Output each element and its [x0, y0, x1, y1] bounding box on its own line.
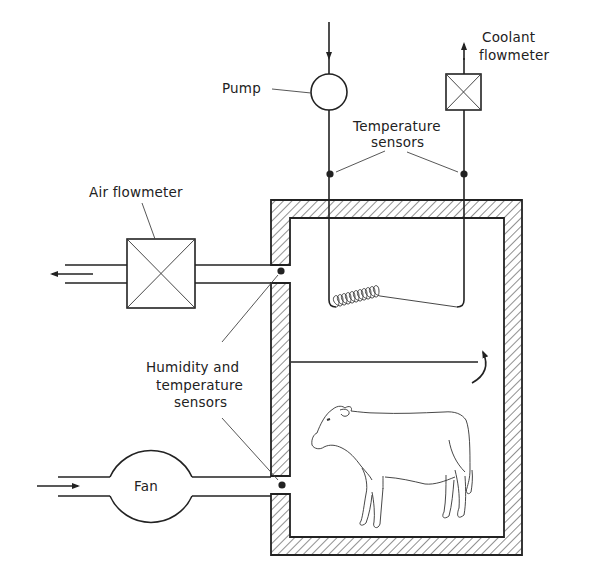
humidity-sensors-label-line2: temperature [156, 377, 243, 393]
temperature-sensors-label-line1: Temperature [352, 118, 441, 134]
pump-leader [272, 89, 311, 93]
temperature-sensors-leader-outlet [407, 152, 458, 172]
temperature-sensors-leader-inlet [336, 151, 385, 172]
air-flowmeter-leader [142, 203, 155, 239]
coolant-flowmeter-label-line1: Coolant [482, 29, 535, 45]
calorimeter-diagram: Pump Coolant flowmeter Temperature senso… [0, 0, 592, 582]
humidity-sensor-dot-outlet [277, 267, 284, 274]
temperature-sensor-dot-inlet [326, 170, 333, 177]
fan-label: Fan [134, 478, 158, 494]
chamber-wall [271, 200, 522, 555]
air-inlet-duct [37, 451, 286, 523]
chamber [271, 200, 522, 555]
temperature-sensors-label-line2: sensors [371, 134, 424, 150]
humidity-sensor-dot-inlet [278, 481, 285, 488]
coolant-flowmeter-label-line2: flowmeter [479, 47, 549, 63]
humidity-sensors-leader-inlet [222, 418, 278, 480]
coolant-flowmeter-icon [446, 74, 481, 110]
air-outlet-duct [52, 239, 285, 308]
cooling-coil [333, 286, 457, 307]
coolant-circuit [311, 22, 481, 307]
pump-label: Pump [222, 80, 261, 96]
temperature-sensor-dot-outlet [460, 170, 467, 177]
air-flowmeter-icon [127, 239, 195, 308]
circulation-arrow-icon [472, 352, 486, 383]
cow-illustration [312, 406, 473, 527]
humidity-sensors-label-line3: sensors [174, 394, 227, 410]
pump-icon [311, 74, 347, 110]
humidity-sensors-label-line1: Humidity and [146, 359, 239, 375]
air-flowmeter-label: Air flowmeter [89, 184, 183, 200]
humidity-sensors-leader-outlet [222, 275, 278, 342]
